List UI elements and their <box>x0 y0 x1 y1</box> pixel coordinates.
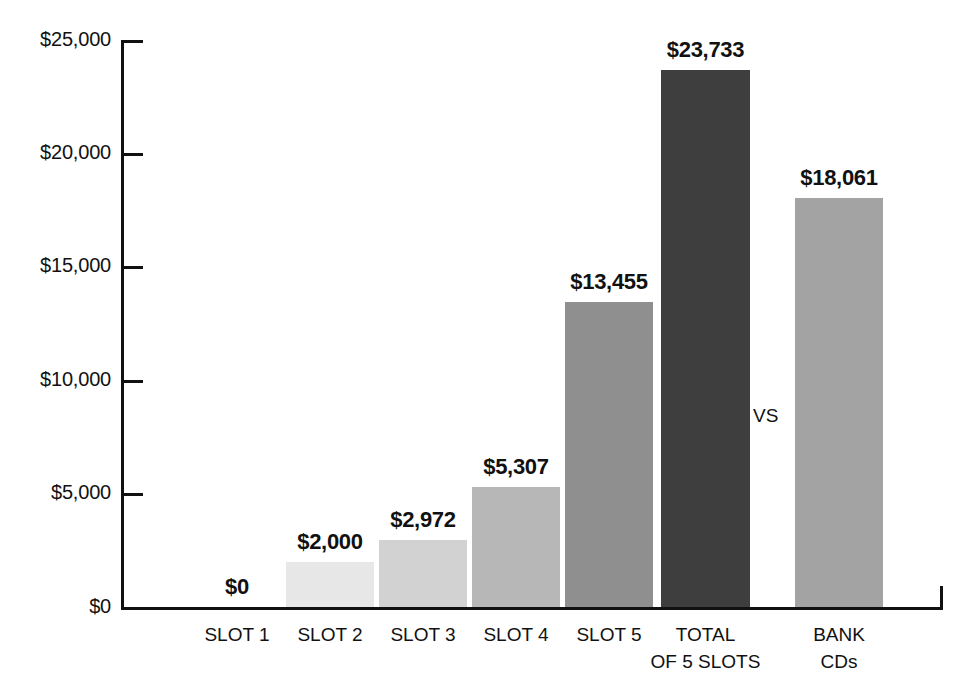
x-axis-line <box>121 607 943 610</box>
bar-slot-3: $2,972 <box>379 540 467 607</box>
x-axis-label-line1: SLOT 2 <box>286 621 374 648</box>
x-axis-label-slot-1: SLOT 1 <box>193 621 281 648</box>
x-axis-label-slot-4: SLOT 4 <box>472 621 560 648</box>
bar-slot-2: $2,000 <box>286 562 374 607</box>
x-axis-label-line1: BANK <box>785 621 893 648</box>
x-axis-label-line1: SLOT 1 <box>193 621 281 648</box>
y-axis-tick-mark <box>121 153 143 156</box>
bar-chart: $25,000 $20,000 $15,000 $10,000 $5,000 $… <box>0 0 973 693</box>
x-axis-label-slot-3: SLOT 3 <box>379 621 467 648</box>
x-axis-label-total-of-5-slots: TOTAL OF 5 SLOTS <box>641 621 770 675</box>
bar-value-label: $2,972 <box>390 507 456 533</box>
y-axis-tick-mark <box>121 40 143 43</box>
x-axis-label-bank-cds: BANK CDs <box>785 621 893 675</box>
y-axis-tick-mark <box>121 380 143 383</box>
bar-slot-5: $13,455 <box>565 302 653 607</box>
y-axis-tick-label: $25,000 <box>1 28 111 51</box>
bar-value-label: $13,455 <box>570 269 647 295</box>
bar-bank-cds: $18,061 <box>795 198 883 607</box>
vs-annotation: VS <box>753 405 778 427</box>
bar-value-label: $5,307 <box>483 454 549 480</box>
y-axis-line <box>121 41 124 610</box>
x-axis-label-slot-2: SLOT 2 <box>286 621 374 648</box>
x-axis-label-line1: TOTAL <box>641 621 770 648</box>
x-axis-label-line1: SLOT 5 <box>565 621 653 648</box>
x-axis-label-line1: SLOT 4 <box>472 621 560 648</box>
bar-value-label: $23,733 <box>667 37 744 63</box>
bar-value-label: $0 <box>225 574 249 600</box>
x-axis-label-line2: CDs <box>785 648 893 675</box>
y-axis-tick-label: $20,000 <box>1 141 111 164</box>
bar-value-label: $18,061 <box>800 165 877 191</box>
bar-value-label: $2,000 <box>297 529 363 555</box>
x-axis-label-slot-5: SLOT 5 <box>565 621 653 648</box>
x-axis-end-tick <box>940 586 943 610</box>
y-axis-tick-label: $0 <box>1 595 111 618</box>
y-axis-tick-label: $15,000 <box>1 254 111 277</box>
y-axis-tick-mark <box>121 493 143 496</box>
y-axis-tick-mark <box>121 266 143 269</box>
bar-total-of-5-slots: $23,733 <box>661 70 750 607</box>
y-axis-tick-label: $10,000 <box>1 368 111 391</box>
y-axis-tick-label: $5,000 <box>1 481 111 504</box>
x-axis-label-line1: SLOT 3 <box>379 621 467 648</box>
bar-slot-4: $5,307 <box>472 487 560 607</box>
x-axis-label-line2: OF 5 SLOTS <box>641 648 770 675</box>
